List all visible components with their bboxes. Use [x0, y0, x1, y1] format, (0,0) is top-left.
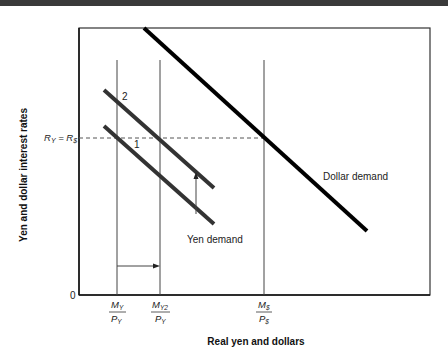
plot-frame	[79, 28, 430, 295]
yen-curve-2-label: 2	[122, 91, 128, 102]
dollar-demand-curve	[144, 28, 367, 231]
origin-label: 0	[70, 290, 76, 301]
dollar-demand-label: Dollar demand	[323, 171, 388, 182]
svg-text:M$: M$	[258, 299, 270, 311]
svg-text:MY2: MY2	[152, 299, 168, 311]
supply-shift-arrowhead	[153, 264, 160, 269]
x-tick-my: MY PY	[109, 299, 126, 325]
x-tick-mdollar: M$ P$	[256, 299, 272, 325]
y-axis-title: Yen and dollar interest rates	[18, 108, 29, 242]
x-axis-title: Real yen and dollars	[207, 336, 305, 347]
rate-equality-label: RY = R$	[44, 132, 77, 144]
yen-curve-1-label: 1	[134, 139, 140, 150]
svg-text:P$: P$	[259, 313, 269, 325]
money-market-diagram: 2 1 Yen demand Dollar demand RY = R$ 0 M…	[0, 0, 448, 358]
svg-text:PY: PY	[155, 313, 166, 325]
yen-demand-label: Yen demand	[187, 234, 243, 245]
svg-text:MY: MY	[111, 299, 124, 311]
x-tick-my2: MY2 PY	[151, 299, 170, 325]
svg-text:PY: PY	[111, 313, 122, 325]
